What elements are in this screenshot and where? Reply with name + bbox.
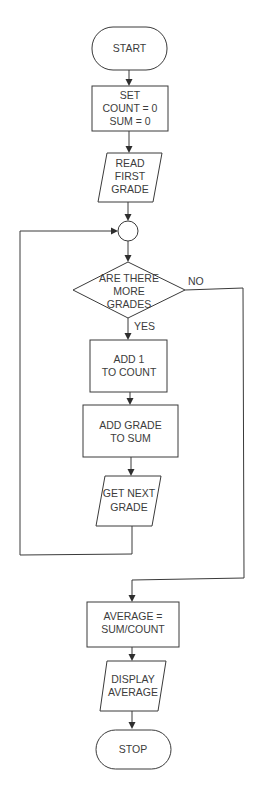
arrow-head-icon (125, 214, 132, 221)
get-next-label-line-2: GRADE (110, 501, 147, 513)
arrow-head-icon (126, 79, 133, 86)
read-label-line-3: GRADE (111, 183, 148, 195)
arrow-head-icon (125, 255, 132, 262)
decision-label-line-3: GRADES (107, 298, 151, 310)
more-grades-decision: ARE THERE MORE GRADES (73, 262, 185, 318)
arrow-head-icon (129, 722, 136, 729)
arrow-head-icon (129, 654, 136, 661)
display-label-line-2: AVERAGE (108, 686, 158, 698)
get-next-grade-io: GET NEXT GRADE (96, 476, 161, 526)
stop-terminator: STOP (96, 730, 171, 769)
init-label-line-3: SUM = 0 (109, 115, 150, 127)
add-sum-process-box: ADD GRADE TO SUM (83, 405, 178, 457)
init-label-line-2: COUNT = 0 (103, 102, 158, 114)
yes-edge-label: YES (134, 320, 155, 332)
display-average-io: DISPLAY AVERAGE (100, 661, 166, 711)
decision-label-line-2: MORE (113, 285, 145, 297)
read-label-line-2: FIRST (115, 170, 146, 182)
add-count-label-line-2: TO COUNT (102, 366, 157, 378)
average-label-line-2: SUM/COUNT (101, 623, 165, 635)
loop-connector-circle (118, 221, 138, 241)
arrow-head-icon (125, 333, 132, 340)
no-edge-label: NO (188, 275, 204, 287)
init-label-line-1: SET (120, 89, 141, 101)
get-next-label-line-1: GET NEXT (103, 487, 156, 499)
arrow-head-icon (126, 146, 133, 153)
init-process-box: SET COUNT = 0 SUM = 0 (92, 86, 168, 131)
decision-label-line-1: ARE THERE (99, 272, 159, 284)
start-terminator: START (92, 27, 167, 70)
read-first-grade-io: READ FIRST GRADE (98, 153, 162, 202)
add-count-label-line-1: ADD 1 (114, 353, 145, 365)
flowchart: START SET COUNT = 0 SUM = 0 READ FIRST G… (0, 0, 266, 790)
display-label-line-1: DISPLAY (111, 673, 155, 685)
start-label: START (113, 42, 147, 54)
arrow-head-icon (127, 398, 134, 405)
add-sum-label-line-2: TO SUM (110, 432, 151, 444)
arrow-head-icon (128, 469, 135, 476)
add-sum-label-line-1: ADD GRADE (99, 419, 161, 431)
average-label-line-1: AVERAGE = (103, 610, 162, 622)
arrow-head-icon (111, 228, 118, 235)
stop-label: STOP (119, 743, 147, 755)
average-process-box: AVERAGE = SUM/COUNT (87, 602, 179, 647)
arrow-head-icon (129, 595, 136, 602)
read-label-line-1: READ (115, 157, 145, 169)
add-count-process-box: ADD 1 TO COUNT (90, 340, 167, 392)
